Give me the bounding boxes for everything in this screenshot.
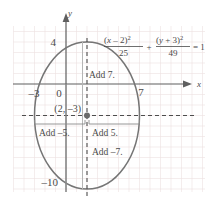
y-axis-label: y [67,8,72,18]
annotation-add-neg-7: Add –7. [92,147,123,157]
origin-label: 0 [56,87,62,99]
ellipse-equation: (x – 2)2 25 + (y + 3)2 49 = 1 [104,34,205,59]
x-axis-label: x [196,79,201,89]
y-tick-label-neg10: –10 [41,176,59,188]
x-tick-label-neg3: –3 [28,87,41,99]
equation-exp-1: 2 [128,34,131,41]
equation-denominator-1: 25 [119,48,129,58]
equation-numerator-2: (y + 3)2 [156,34,183,46]
annotation-add-neg-5: Add –5. [39,128,70,138]
equation-denominator-2: 49 [169,48,179,58]
ellipse-translation-figure: 4 –10 –3 7 0 x y (2, –3) Add 7. Add –5. … [0,0,212,203]
center-point-dot [84,113,90,119]
equation-op-2: + 3 [163,35,178,45]
equation-plus-sign: + [146,42,151,52]
y-tick-label-4: 4 [51,36,57,48]
equation-op-1: – 2 [111,35,125,45]
annotation-add-5: Add 5. [92,128,118,138]
center-point-label: (2, –3) [54,103,81,115]
x-axis-arrow [183,81,192,88]
graph-canvas: 4 –10 –3 7 0 x y (2, –3) Add 7. Add –5. … [0,0,212,203]
equation-equals-one: = 1 [193,42,205,52]
x-tick-label-7: 7 [138,86,144,98]
equation-exp-2: 2 [180,34,183,41]
equation-numerator-1: (x – 2)2 [104,34,131,46]
annotation-add-7: Add 7. [89,70,115,80]
